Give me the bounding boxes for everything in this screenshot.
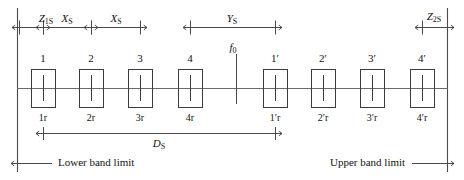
dimension-label-xs-a: XS: [61, 13, 72, 24]
dimension-label-z2s: Z2S: [427, 11, 442, 22]
channel-bottom-label-ch1: 1r: [39, 113, 47, 123]
diagram-vector-layer: [0, 0, 464, 180]
dimension-symbol-xs-b: X: [110, 12, 117, 24]
dimension-label-z1s: Z1S: [39, 13, 54, 24]
dimension-subscript-xs-b: S: [117, 17, 121, 26]
diagram-canvas: Z1S XS XS YS Z2S DS f0 Lower band limit …: [0, 0, 464, 180]
channel-top-label-ch2: 2: [88, 53, 94, 64]
dimension-subscript-z2s: 2S: [433, 15, 441, 24]
dimension-subscript-xs-a: S: [68, 17, 72, 26]
lower-band-limit-label: Lower band limit: [58, 157, 134, 168]
channel-top-label-ch3p: 3′: [368, 53, 376, 64]
channel-top-label-ch1: 1: [40, 53, 46, 64]
channel-top-label-ch3: 3: [137, 53, 143, 64]
dimension-symbol-ds: D: [153, 137, 161, 149]
dimension-subscript-ds: S: [161, 142, 165, 151]
channel-top-label-ch4p: 4′: [418, 53, 426, 64]
center-frequency-subscript: 0: [233, 46, 237, 55]
dimension-label-ds: DS: [153, 138, 165, 149]
dimension-label-ys: YS: [227, 13, 238, 24]
upper-band-limit-label: Upper band limit: [330, 157, 405, 168]
center-frequency-label: f0: [229, 42, 236, 53]
channel-bottom-label-ch3p: 3′r: [367, 113, 378, 123]
dimension-subscript-z1s: 1S: [45, 17, 53, 26]
channel-top-label-ch1p: 1′: [271, 53, 279, 64]
dimension-subscript-ys: S: [233, 17, 237, 26]
band-limit-lines: [18, 8, 448, 172]
channel-bottom-label-ch3: 3r: [136, 113, 144, 123]
dimension-label-xs-b: XS: [110, 13, 121, 24]
channel-bottom-label-ch2: 2r: [87, 113, 95, 123]
channel-bottom-label-ch4p: 4′r: [417, 113, 428, 123]
channel-bottom-label-ch4: 4r: [186, 113, 194, 123]
channel-top-label-ch4: 4: [187, 53, 193, 64]
channel-top-label-ch2p: 2′: [319, 53, 327, 64]
channel-bottom-label-ch2p: 2′r: [318, 113, 329, 123]
dimension-symbol-xs-a: X: [61, 12, 68, 24]
channel-bottom-label-ch1p: 1′r: [270, 113, 281, 123]
